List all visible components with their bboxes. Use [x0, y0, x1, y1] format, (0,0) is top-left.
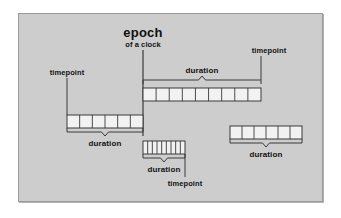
figure-canvas: epoch of a clock duration duration durat… [19, 14, 322, 201]
epoch-subtitle: of a clock [125, 41, 161, 49]
duration-label-middle: duration [148, 166, 181, 174]
duration-label-right: duration [250, 151, 283, 159]
duration-label-top: duration [186, 67, 219, 75]
timepoint-label-bottom: timepoint [168, 180, 203, 188]
figure-frame: epoch of a clock duration duration durat… [18, 13, 323, 202]
timepoint-label-top-right: timepoint [252, 47, 287, 55]
middle-duration-bar-outline [143, 141, 185, 154]
epoch-title: epoch [123, 26, 162, 39]
middle-duration-bar-brace [143, 154, 185, 162]
left-duration-bar-brace [67, 128, 143, 136]
figure-root: epoch of a clock duration duration durat… [0, 0, 341, 218]
right-duration-bar-brace [230, 139, 302, 147]
top-duration-bar-brace [143, 76, 261, 84]
duration-label-left: duration [89, 140, 122, 148]
timepoint-label-left: timepoint [50, 69, 85, 77]
top-duration-bar-outline [143, 88, 261, 101]
